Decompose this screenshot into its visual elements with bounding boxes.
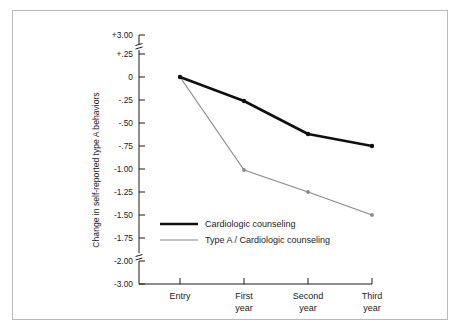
y-tick-label-9: -1.75 [114,233,133,243]
y-tick-label-5: -.75 [119,141,134,151]
series-markers-type-a-cardiologic [178,75,374,217]
y-tick-label-2: 0 [128,72,133,82]
y-tick-label-4: -.50 [119,118,134,128]
y-tick-label-1: +.25 [116,49,133,59]
legend-label-cardiologic: Cardiologic counseling [205,219,296,229]
y-tick-label-6: -1.00 [114,164,133,174]
y-axis-title: Change in self-reported type A behaviors [91,92,101,247]
x-tick-marks [180,278,372,284]
x-tick-label-first-line2: year [235,303,253,313]
chart-figure: +3.00 +.25 0 -.25 -.50 -.75 -1.00 -1.25 … [0,0,460,334]
chart-legend: Cardiologic counseling Type A / Cardiolo… [160,219,330,245]
y-tick-label-11: -3.00 [114,279,133,289]
x-tick-label-second-line2: year [299,303,317,313]
line-chart-plot: +3.00 +.25 0 -.25 -.50 -.75 -1.00 -1.25 … [0,0,460,334]
series-line-cardiologic [180,77,372,146]
series-line-type-a-cardiologic [180,77,372,215]
y-tick-label-0: +3.00 [112,30,134,40]
x-tick-label-third-line2: year [363,303,381,313]
legend-label-type-a-cardiologic: Type A / Cardiologic counseling [205,235,330,245]
y-tick-label-10: -2.00 [114,256,133,266]
x-tick-label-first-line1: First [235,291,253,301]
x-tick-label-second-line1: Second [293,291,324,301]
x-tick-label-entry: Entry [169,291,191,301]
x-tick-label-third-line1: Third [362,291,383,301]
y-axis-break-top-icon [136,44,143,50]
y-tick-label-7: -1.25 [114,187,133,197]
series-markers-cardiologic [178,75,374,148]
y-tick-marks [139,35,145,284]
y-tick-label-8: -1.50 [114,210,133,220]
y-tick-label-3: -.25 [119,95,134,105]
y-axis-break-bottom-icon [136,255,143,261]
